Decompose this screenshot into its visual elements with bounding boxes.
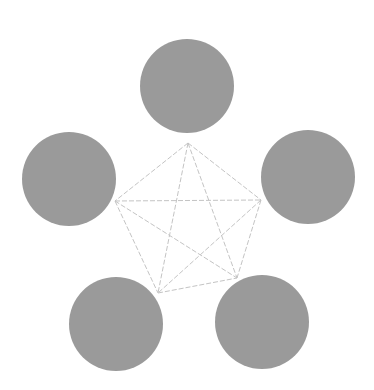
node-left <box>22 132 116 226</box>
edge-top-right <box>188 143 261 200</box>
edge-right-bottom-right <box>237 200 261 278</box>
node-bottom-right <box>215 275 309 369</box>
edge-top-bottom-left <box>158 143 188 293</box>
edge-top-left <box>115 143 188 201</box>
node-top <box>140 39 234 133</box>
node-bottom-left <box>69 277 163 371</box>
node-right <box>261 130 355 224</box>
edges-layer <box>115 143 261 293</box>
edge-top-bottom-right <box>188 143 237 278</box>
edge-bottom-left-bottom-right <box>158 278 237 293</box>
nodes-layer <box>22 39 355 371</box>
graph-diagram <box>0 0 374 390</box>
edge-left-right <box>115 200 261 201</box>
